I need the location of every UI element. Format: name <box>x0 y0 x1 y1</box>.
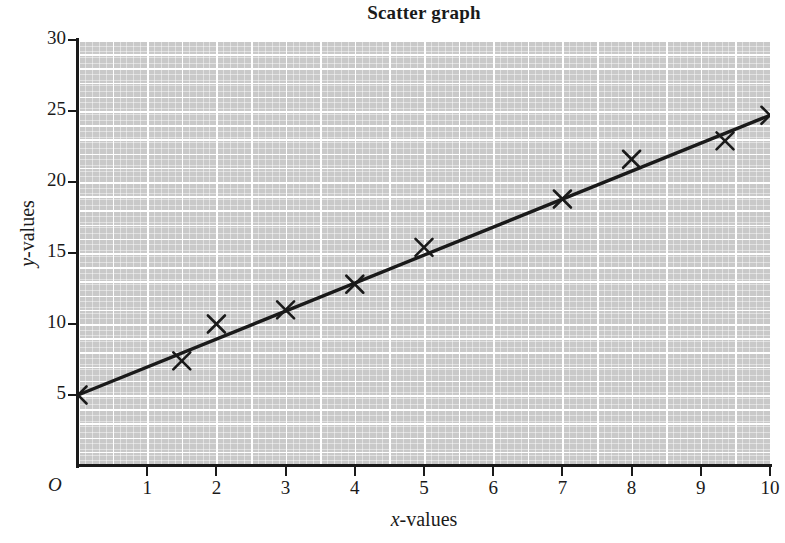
x-tick-label: 4 <box>335 477 375 499</box>
x-tick-mark <box>700 467 702 476</box>
y-tick-mark <box>68 252 77 254</box>
scatter-chart-figure: Scatter graph 51015202530 12345678910 O … <box>0 0 785 543</box>
x-tick-label: 10 <box>750 477 785 499</box>
x-tick-label: 1 <box>127 477 167 499</box>
y-tick-label: 10 <box>8 311 66 333</box>
y-axis-title-rest: -values <box>16 200 38 258</box>
x-tick-label: 5 <box>404 477 444 499</box>
x-tick-label: 2 <box>196 477 236 499</box>
x-tick-mark <box>146 467 148 476</box>
origin-label: O <box>48 474 62 496</box>
y-tick-mark <box>68 181 77 183</box>
y-tick-label: 25 <box>8 98 66 120</box>
x-tick-label: 6 <box>473 477 513 499</box>
x-tick-mark <box>492 467 494 476</box>
x-axis-title-rest: -values <box>400 508 458 530</box>
plot-area <box>78 40 770 466</box>
data-point-marker <box>208 316 225 333</box>
x-tick-mark <box>354 467 356 476</box>
y-tick-mark <box>68 110 77 112</box>
y-tick-label: 30 <box>8 27 66 49</box>
x-tick-mark <box>561 467 563 476</box>
y-axis-title-symbol: y <box>16 258 38 267</box>
x-axis-title-symbol: x <box>391 508 400 530</box>
data-layer <box>78 40 770 466</box>
y-tick-label: 5 <box>8 382 66 404</box>
x-tick-label: 8 <box>612 477 652 499</box>
y-tick-mark <box>68 323 77 325</box>
x-tick-label: 3 <box>266 477 306 499</box>
chart-title: Scatter graph <box>78 2 770 24</box>
data-point-marker <box>173 352 190 369</box>
data-point-marker <box>416 239 433 256</box>
line-of-best-fit <box>78 115 770 395</box>
y-tick-mark <box>68 394 77 396</box>
y-tick-mark <box>68 39 77 41</box>
x-tick-mark <box>423 467 425 476</box>
x-axis-title: x-values <box>78 508 770 531</box>
x-tick-mark <box>285 467 287 476</box>
data-point-marker <box>623 151 640 168</box>
y-axis-title: y-values <box>16 164 39 304</box>
x-tick-mark <box>215 467 217 476</box>
x-tick-mark <box>631 467 633 476</box>
x-tick-label: 9 <box>681 477 721 499</box>
data-point-marker <box>554 191 571 208</box>
x-tick-mark <box>769 467 771 476</box>
x-tick-label: 7 <box>542 477 582 499</box>
